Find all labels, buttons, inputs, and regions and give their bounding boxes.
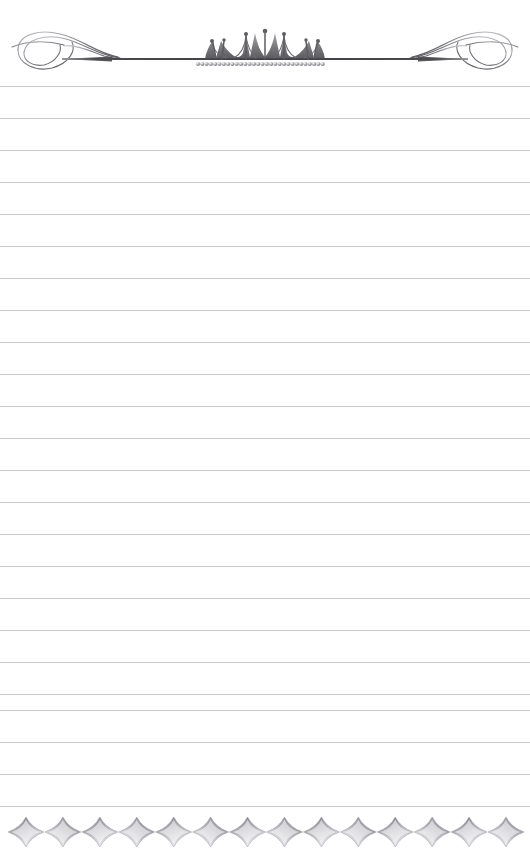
star-highlight bbox=[196, 820, 225, 845]
pearl-band-icon bbox=[196, 62, 325, 66]
stationery-page bbox=[0, 0, 530, 864]
star-highlight bbox=[49, 820, 78, 845]
star-highlight bbox=[492, 820, 521, 845]
star-highlight bbox=[418, 820, 447, 845]
header-ornament bbox=[0, 0, 530, 80]
scroll-flourish-right-icon bbox=[404, 32, 518, 69]
crown-icon bbox=[205, 29, 325, 59]
writing-area[interactable] bbox=[0, 80, 530, 810]
star-highlight bbox=[270, 820, 299, 845]
star-highlight bbox=[381, 820, 410, 845]
star-highlight bbox=[159, 820, 188, 845]
star-highlight bbox=[12, 820, 41, 845]
star-highlight bbox=[233, 820, 262, 845]
star-highlight bbox=[122, 820, 151, 845]
star-highlight bbox=[85, 820, 114, 845]
star-highlight bbox=[455, 820, 484, 845]
scroll-flourish-left-icon bbox=[12, 32, 126, 69]
footer-ornament bbox=[0, 808, 530, 864]
star-highlight bbox=[307, 820, 336, 845]
star-highlight bbox=[344, 820, 373, 845]
star-chain-border bbox=[8, 817, 524, 847]
